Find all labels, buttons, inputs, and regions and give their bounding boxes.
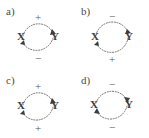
- panel-b-top-sign: −: [109, 10, 115, 22]
- panel-d-bottom-sign: −: [109, 121, 115, 133]
- panel-a-bottom-arc: [22, 38, 53, 50]
- panel-d-diagram: X Y − −: [75, 69, 149, 138]
- panel-a-top-sign: +: [35, 11, 41, 23]
- panel-d: d) X Y − −: [75, 69, 149, 138]
- panel-a-top-arc: [23, 24, 53, 36]
- panel-c-top-sign: +: [35, 80, 41, 92]
- panel-c-node-y: Y: [51, 99, 59, 111]
- panel-b-node-y: Y: [125, 30, 133, 42]
- panel-b-diagram: X Y − +: [75, 0, 149, 69]
- panel-d-node-y: Y: [125, 98, 133, 110]
- panel-c-node-x: X: [17, 99, 25, 111]
- panel-c: c) X Y + +: [0, 69, 74, 138]
- panel-b: b) X Y − +: [75, 0, 149, 69]
- panel-a-bottom-sign: −: [35, 52, 41, 64]
- panel-a-node-x: X: [17, 30, 25, 42]
- panel-b-node-x: X: [91, 30, 99, 42]
- panel-d-top-arc: [96, 91, 127, 103]
- panel-c-diagram: X Y + +: [0, 69, 74, 138]
- panel-d-bottom-arc: [96, 106, 127, 119]
- panel-d-top-sign: −: [109, 78, 115, 90]
- panel-d-node-x: X: [90, 98, 98, 110]
- panel-c-bottom-sign: +: [35, 122, 41, 134]
- panel-a-diagram: X Y + −: [0, 0, 74, 69]
- panel-b-bottom-sign: +: [109, 53, 115, 65]
- panel-c-top-arc: [23, 93, 53, 105]
- panel-a: a) X Y + −: [0, 0, 74, 69]
- panel-a-node-y: Y: [51, 30, 59, 42]
- panel-b-bottom-arc: [96, 38, 128, 52]
- panel-c-bottom-arc: [22, 107, 53, 120]
- panel-b-top-arc: [96, 22, 128, 35]
- figure-panel-grid: a) X Y + − b) X Y − +: [0, 0, 149, 138]
